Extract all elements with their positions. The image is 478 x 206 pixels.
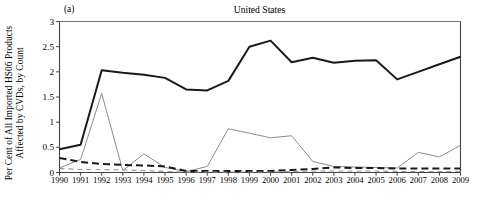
- series-line-flow-solid-gray: [60, 93, 461, 171]
- figure-panel: Per Cent of All Imported HS06 Products A…: [0, 0, 478, 206]
- series-line-stock-solid-black: [60, 41, 461, 150]
- chart-plot-area: [0, 0, 478, 206]
